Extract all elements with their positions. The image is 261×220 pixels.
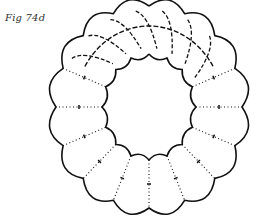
dashed-overlap-arcs <box>72 11 213 77</box>
dotted-seams <box>56 68 242 208</box>
scalloped-ring-diagram <box>0 0 261 220</box>
inner-scalloped-edge <box>102 54 196 160</box>
